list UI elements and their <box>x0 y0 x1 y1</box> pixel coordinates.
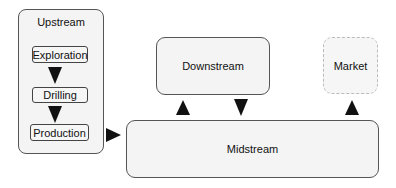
market-label: Market <box>334 60 368 72</box>
market-node: Market <box>323 37 378 94</box>
production-node: Production <box>30 124 89 141</box>
downstream-label: Downstream <box>182 60 244 72</box>
exploration-node: Exploration <box>32 46 88 63</box>
arrow-down-icon <box>234 99 248 116</box>
arrow-up-icon <box>176 100 190 115</box>
arrow-right-icon <box>106 128 121 142</box>
midstream-node: Midstream <box>126 120 379 178</box>
arrow-down-icon <box>48 106 62 123</box>
upstream-title: Upstream <box>19 16 103 28</box>
downstream-node: Downstream <box>156 37 270 95</box>
arrow-down-icon <box>48 67 62 84</box>
drilling-node: Drilling <box>32 87 88 103</box>
midstream-label: Midstream <box>227 143 278 155</box>
arrow-up-icon <box>345 100 359 115</box>
